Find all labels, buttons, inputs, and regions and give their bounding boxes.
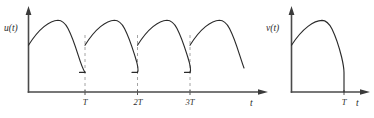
v-panel-tick-label-T: T [342,97,348,107]
v-panel-curve [292,20,345,92]
v-panel-y-axis-label: v(t) [266,23,279,34]
v-panel-x-axis-label: t [356,98,359,108]
u-panel-x-axis-arrowhead [258,89,268,95]
panel-v-of-t: v(t) t T [266,6,370,108]
u-panel-curve [29,20,245,72]
u-panel-tick-label-T: T [83,97,89,107]
figure-container: u(t) t T 2T 3T v(t) t T [0,0,374,118]
v-panel-x-axis-arrowhead [360,89,370,95]
u-panel-y-axis-label: u(t) [4,23,18,34]
u-panel-tick-label-3T: 3T [185,97,196,107]
waveform-figure: u(t) t T 2T 3T v(t) t T [0,0,374,118]
u-panel-x-axis-label: t [250,98,253,108]
u-panel-y-axis-arrowhead [26,6,32,15]
v-panel-y-axis-arrowhead [289,6,295,15]
panel-u-of-t: u(t) t T 2T 3T [4,6,268,108]
u-panel-tick-label-2T: 2T [134,97,144,107]
